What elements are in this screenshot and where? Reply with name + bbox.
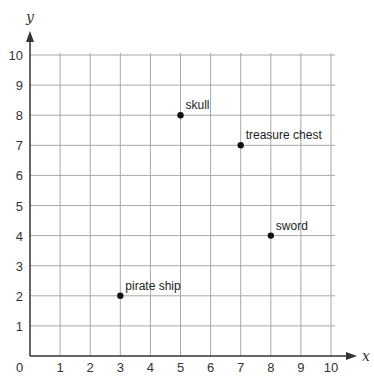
point-marker-icon xyxy=(238,142,244,148)
x-tick-label: 5 xyxy=(177,360,184,375)
y-tick-label: 9 xyxy=(16,78,23,93)
point-label: pirate ship xyxy=(125,279,181,293)
x-tick-label: 10 xyxy=(324,360,338,375)
point-marker-icon xyxy=(177,112,183,118)
axes: x y 0 xyxy=(16,9,370,375)
y-tick-label: 1 xyxy=(16,319,23,334)
y-tick-label: 8 xyxy=(16,108,23,123)
y-tick-label: 4 xyxy=(16,229,23,244)
point-label: treasure chest xyxy=(246,128,323,142)
y-axis-arrow-icon xyxy=(26,31,34,42)
y-tick-label: 10 xyxy=(9,48,23,63)
point-label: sword xyxy=(276,219,308,233)
x-tick-label: 1 xyxy=(56,360,63,375)
coordinate-grid-chart: x y 0 12345678910 12345678910 skulltreas… xyxy=(0,0,374,383)
x-tick-label: 4 xyxy=(147,360,154,375)
point-marker-icon xyxy=(117,293,123,299)
x-tick-label: 3 xyxy=(117,360,124,375)
x-tick-label: 8 xyxy=(267,360,274,375)
data-points: skulltreasure chestswordpirate ship xyxy=(117,98,322,299)
origin-label: 0 xyxy=(16,360,23,375)
x-tick-label: 9 xyxy=(297,360,304,375)
point-label: skull xyxy=(186,98,210,112)
y-axis-label: y xyxy=(25,9,35,25)
x-tick-labels: 12345678910 xyxy=(56,360,338,375)
y-tick-label: 6 xyxy=(16,168,23,183)
x-tick-label: 7 xyxy=(237,360,244,375)
point-marker-icon xyxy=(268,232,274,238)
y-tick-label: 7 xyxy=(16,138,23,153)
y-tick-label: 2 xyxy=(16,289,23,304)
y-tick-label: 5 xyxy=(16,199,23,214)
x-tick-label: 6 xyxy=(207,360,214,375)
x-axis-arrow-icon xyxy=(346,352,357,360)
y-tick-label: 3 xyxy=(16,259,23,274)
x-axis-label: x xyxy=(362,348,370,364)
y-tick-labels: 12345678910 xyxy=(9,48,23,334)
grid-lines xyxy=(30,53,335,356)
x-tick-label: 2 xyxy=(87,360,94,375)
